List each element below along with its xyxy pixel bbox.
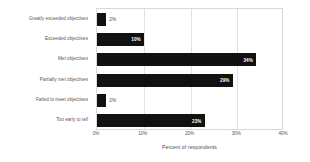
category-label: Too early to tell: [56, 110, 88, 130]
bar-value-label: 29%: [220, 78, 230, 83]
category-axis-labels: Greatly exceeded objectivesExceeded obje…: [0, 8, 92, 130]
bar: 2%: [97, 94, 106, 107]
bar: 34%: [97, 53, 256, 66]
x-tick-label: 10%: [138, 131, 147, 136]
bar: 23%: [97, 114, 205, 127]
bar: 29%: [97, 74, 233, 87]
bar-value-label: 2%: [109, 17, 116, 22]
category-label: Met objectives: [58, 49, 88, 69]
category-label: Partially met objectives: [40, 69, 88, 89]
plot-area: 2%10%34%29%2%23%: [96, 8, 283, 130]
bar-row: 34%: [97, 50, 282, 70]
bar-value-label: 23%: [192, 118, 202, 123]
bar-row: 2%: [97, 90, 282, 110]
bar-chart: Greatly exceeded objectivesExceeded obje…: [0, 0, 310, 162]
x-axis-ticks: 0%10%20%30%40%: [96, 131, 283, 141]
bar: 10%: [97, 33, 144, 46]
category-label: Exceeded objectives: [45, 28, 88, 48]
bar-value-label: 34%: [243, 57, 253, 62]
bar: 2%: [97, 13, 106, 26]
bar-row: 10%: [97, 29, 282, 49]
bar-rows: 2%10%34%29%2%23%: [97, 9, 282, 129]
bar-row: 23%: [97, 111, 282, 131]
x-tick-label: 20%: [185, 131, 194, 136]
x-tick-label: 0%: [93, 131, 100, 136]
bar-row: 2%: [97, 9, 282, 29]
category-label: Greatly exceeded objectives: [29, 8, 88, 28]
bar-row: 29%: [97, 70, 282, 90]
bar-value-label: 2%: [109, 98, 116, 103]
x-axis-title: Percent of respondents: [96, 144, 283, 150]
x-tick-label: 40%: [278, 131, 287, 136]
x-tick-label: 30%: [232, 131, 241, 136]
category-label: Failed to meet objectives: [36, 89, 88, 109]
bar-value-label: 10%: [131, 37, 141, 42]
